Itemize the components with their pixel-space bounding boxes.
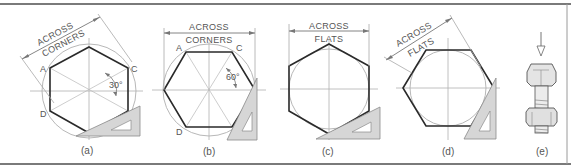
panel-caption: (c) [322,146,334,157]
drafting-triangle [76,106,140,136]
drafting-triangle [227,78,257,140]
hexagon-construction-figure: ACROSS CORNERS A B C D 30° (a) ACROSS CO [0,0,571,168]
drafting-triangle [464,78,496,139]
hex-bolt-with-nut-icon [526,32,557,133]
point-label-d: D [176,127,183,137]
panel-e: (e) [526,32,557,157]
panel-a: ACROSS CORNERS A B C D 30° (a) [20,14,143,156]
point-label-d: D [40,109,47,119]
panel-caption: (a) [81,145,93,156]
panel-d: ACROSS FLATS (d) [384,15,500,157]
panel-c: ACROSS FLATS (c) [280,21,380,157]
panel-caption: (b) [203,146,215,157]
angle-label: 60° [226,72,240,82]
panel-b: ACROSS CORNERS A B C D 60° (b) [152,22,266,157]
dimension-label-line1: ACROSS [189,22,229,32]
point-label-a: A [40,64,46,74]
dimension-label-line2: FLATS [315,34,344,44]
dimension-label-line1: ACROSS [309,21,349,31]
panel-caption: (e) [536,146,548,157]
point-label-c: C [236,43,243,53]
point-label-a: A [176,43,182,53]
dimension-label-line2: CORNERS [185,35,232,45]
panel-caption: (d) [442,146,454,157]
angle-label: 30° [109,80,123,90]
drafting-triangle [316,107,380,139]
point-label-c: C [131,64,138,74]
